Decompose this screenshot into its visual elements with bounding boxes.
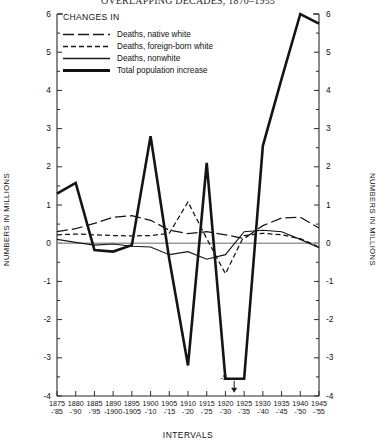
x-tick-year-end: -'55 bbox=[306, 408, 332, 416]
x-tick-label: 1945-'55 bbox=[306, 400, 332, 416]
y-tick-label-right: 5 bbox=[326, 48, 344, 56]
y-tick-label-left: 4 bbox=[33, 86, 51, 94]
y-tick-label-right: 2 bbox=[326, 162, 344, 170]
annotation-layer bbox=[231, 381, 237, 393]
y-tick-label-left: -2 bbox=[33, 315, 51, 323]
offscale-annotation: -5 bbox=[220, 373, 227, 382]
series-line bbox=[57, 14, 319, 379]
y-tick-label-left: -1 bbox=[33, 277, 51, 285]
y-tick-label-left: 3 bbox=[33, 124, 51, 132]
y-tick-label-right: -4 bbox=[326, 392, 344, 400]
y-tick-label-right: -2 bbox=[326, 315, 344, 323]
y-tick-label-left: 1 bbox=[33, 201, 51, 209]
y-tick-label-right: 4 bbox=[326, 86, 344, 94]
series-line bbox=[57, 202, 319, 274]
plot-area bbox=[0, 0, 376, 448]
axis-layer bbox=[57, 14, 319, 396]
y-tick-label-right: 3 bbox=[326, 124, 344, 132]
y-tick-label-right: -1 bbox=[326, 277, 344, 285]
y-tick-label-right: 6 bbox=[326, 10, 344, 18]
data-layer bbox=[57, 14, 319, 379]
y-tick-label-left: -3 bbox=[33, 353, 51, 361]
y-tick-label-left: 5 bbox=[33, 48, 51, 56]
y-tick-label-right: 0 bbox=[326, 239, 344, 247]
y-tick-label-left: 2 bbox=[33, 162, 51, 170]
y-tick-label-left: 0 bbox=[33, 239, 51, 247]
y-tick-label-right: 1 bbox=[326, 201, 344, 209]
y-tick-label-right: -3 bbox=[326, 353, 344, 361]
y-tick-label-left: 6 bbox=[33, 10, 51, 18]
